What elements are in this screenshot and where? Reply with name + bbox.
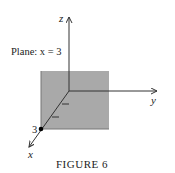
figure-caption: FIGURE 6: [56, 158, 108, 170]
point-label: 3: [32, 124, 37, 135]
y-axis-label: y: [150, 94, 156, 106]
plane-label: Plane: x = 3: [11, 46, 62, 57]
x-axis-label: x: [27, 148, 33, 160]
plane-diagram: z y x Plane: x = 3 3 FIGURE 6: [0, 0, 175, 173]
z-axis-label: z: [58, 12, 64, 24]
point-x-3: [39, 127, 44, 132]
plane-x-3: [41, 71, 109, 129]
